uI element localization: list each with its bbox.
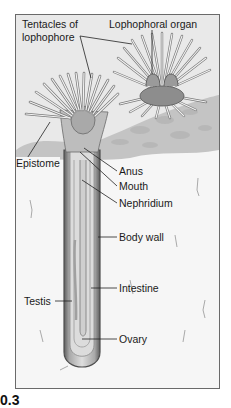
label-lophophoral-organ: Lophophoral organ <box>109 18 197 31</box>
label-epistome: Epistome <box>16 157 60 170</box>
label-ovary: Ovary <box>119 333 147 346</box>
label-intestine: Intestine <box>119 282 159 295</box>
label-body-wall: Body wall <box>119 231 164 244</box>
intestine-tract <box>80 160 86 336</box>
lophophore-base <box>140 86 184 106</box>
label-tentacles-line1: Tentacles of <box>22 18 78 31</box>
label-testis: Testis <box>24 295 51 308</box>
sand-substrate <box>16 150 219 388</box>
figure-caption-fragment: 0.3 <box>0 392 19 408</box>
label-tentacles-line2: lophophore <box>22 31 75 44</box>
label-anus: Anus <box>119 165 143 178</box>
label-mouth: Mouth <box>119 180 148 193</box>
label-nephridium: Nephridium <box>119 197 173 210</box>
